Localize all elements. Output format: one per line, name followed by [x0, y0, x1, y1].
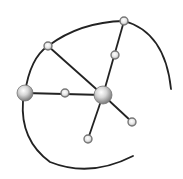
outer-arc-top	[25, 21, 171, 93]
hub-center-node	[94, 86, 112, 104]
hub-left-node	[17, 85, 33, 101]
outer-arc-bottom	[23, 101, 133, 169]
node-bottom-node	[84, 135, 92, 143]
node-top-right-node	[120, 17, 128, 25]
node-upper-mid-node	[111, 51, 119, 59]
node-lower-right-node	[128, 118, 136, 126]
edge-node-top-left-hub-center	[48, 46, 103, 95]
node-top-left-node	[44, 42, 52, 50]
nodes	[17, 17, 136, 143]
network-diagram	[0, 0, 183, 179]
node-mid-left-node	[61, 89, 69, 97]
edges	[25, 21, 132, 139]
